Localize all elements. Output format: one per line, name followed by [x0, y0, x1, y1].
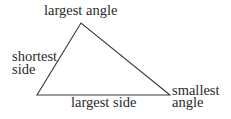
- label-largest-angle: largest angle: [44, 4, 117, 17]
- triangle-diagram: largest angle shortest side largest side…: [0, 0, 231, 119]
- label-largest-side: largest side: [71, 96, 136, 109]
- label-shortest-side-line2: side: [12, 63, 35, 76]
- label-smallest-angle-line2: angle: [172, 96, 203, 109]
